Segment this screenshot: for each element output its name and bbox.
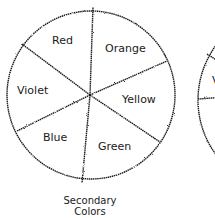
color-wheel-diagram: Red Orange Yellow Green Blue Violet V Se… [0, 0, 215, 218]
segment-label-violet: Violet [17, 84, 49, 97]
segment-label-red: Red [52, 34, 73, 47]
second-divider-middle [198, 96, 215, 99]
segment-label-orange: Orange [105, 42, 146, 55]
segment-label-green: Green [98, 140, 131, 153]
caption-line-2: Colors [74, 206, 105, 217]
segment-label-yellow: Yellow [121, 93, 156, 106]
divider-upper-right [90, 61, 167, 95]
caption-line-1: Secondary [64, 195, 117, 206]
divider-lower-left [17, 95, 90, 131]
segment-label-blue: Blue [43, 131, 68, 144]
second-wheel-partial [198, 8, 215, 192]
second-wheel-outline [198, 8, 215, 192]
divider-bottom [82, 95, 90, 183]
divider-top [90, 7, 93, 95]
second-wheel-partial-label: V [212, 74, 215, 87]
